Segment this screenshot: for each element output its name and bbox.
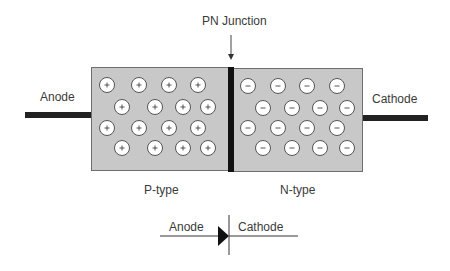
pn-junction-diagram (0, 0, 450, 271)
cathode-label: Cathode (372, 92, 417, 106)
n-type-label: N-type (280, 183, 315, 197)
diode-cathode-label: Cathode (238, 220, 283, 234)
junction-bar (228, 67, 234, 172)
cathode-lead (362, 115, 428, 121)
diode-triangle (218, 226, 229, 246)
pn-junction-label: PN Junction (202, 14, 267, 28)
anode-lead (25, 112, 92, 118)
anode-label: Anode (40, 90, 75, 104)
junction-arrow-head (228, 54, 234, 60)
diode-anode-label: Anode (169, 220, 204, 234)
p-type-label: P-type (144, 183, 179, 197)
